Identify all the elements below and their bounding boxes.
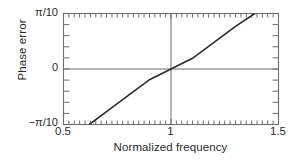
plot-area: [0, 0, 303, 163]
chart-figure: Phase error π/10 0 −π/10 0.5 1 1.5 Norma…: [0, 0, 303, 163]
